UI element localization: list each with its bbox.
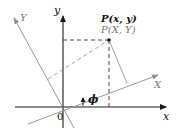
projection-to-rotated-x-axis [109,40,127,83]
origin-label: 0 [57,111,63,122]
point-label-xy: P(x, y) [101,13,137,24]
dashed-to-rotated-y-axis [48,40,109,79]
point-label-XY: P(X, Y) [101,24,136,35]
rotated-y-axis-label: Y [20,12,27,23]
y-axis-label: y [54,4,60,17]
x-axis-label: x [163,110,169,123]
rotated-y-axis [14,18,74,128]
point-p [107,38,111,42]
rotated-x-axis-label: X [154,79,161,90]
angle-phi-label: ϕ [88,93,98,106]
